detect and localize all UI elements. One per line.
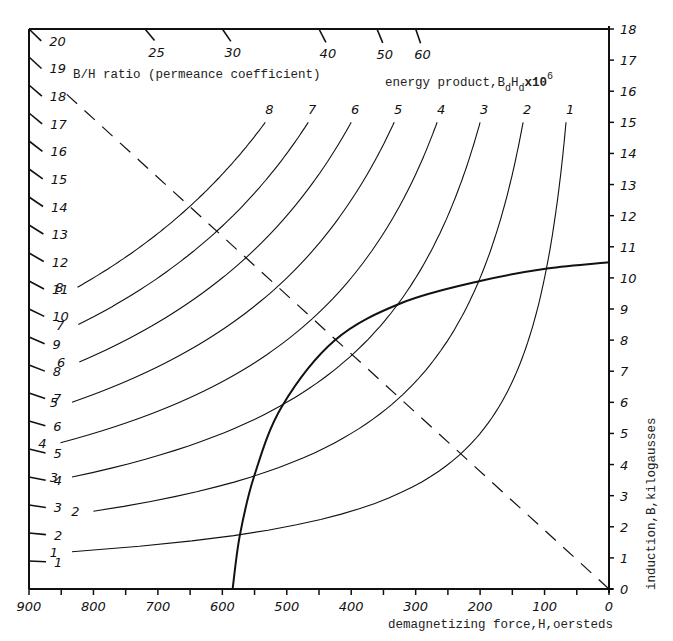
permeance-scale: 1234567891011121314151617181920253040506… — [29, 29, 431, 570]
demagnetization-chart: 9008007006005004003002001000 01234567891… — [0, 0, 673, 641]
y-tick-label: 10 — [620, 271, 637, 286]
energy-curve-label: 1 — [566, 102, 574, 117]
permeance-tick-label: 16 — [50, 144, 67, 159]
y-tick-label: 12 — [620, 209, 637, 224]
x-tick-label: 700 — [145, 599, 170, 614]
y-tick-label: 15 — [620, 115, 637, 130]
x-axis-title: demagnetizing force,H,oersteds — [388, 618, 613, 632]
x-tick-label: 900 — [17, 599, 42, 614]
energy-product-curve — [78, 122, 308, 324]
energy-curve-label: 4 — [437, 102, 445, 117]
energy-curve-label: 8 — [55, 280, 63, 295]
energy-curve-label: 6 — [351, 102, 359, 117]
energy-curve-label: 1 — [50, 545, 58, 560]
y-axis-title: induction,B,kilogausses — [645, 417, 659, 590]
x-tick-label: 0 — [605, 599, 613, 614]
energy-curve-label: 2 — [523, 102, 531, 117]
energy-curve-label: 3 — [480, 102, 488, 117]
y-tick-label: 1 — [620, 551, 628, 566]
energy-curve-label: 4 — [38, 436, 46, 451]
x-tick-label: 300 — [403, 599, 428, 614]
energy-product-curve — [61, 122, 438, 443]
y-tick-label: 4 — [620, 458, 628, 473]
permeance-tick-label: 3 — [54, 500, 62, 515]
energy-curve-label: 7 — [56, 318, 65, 333]
y-tick-label: 2 — [620, 520, 628, 535]
y-tick-label: 0 — [620, 582, 628, 597]
permeance-tick-label: 30 — [225, 45, 242, 60]
permeance-tick-label: 25 — [148, 45, 165, 60]
y-tick-label: 3 — [620, 489, 628, 504]
energy-curve-label: 3 — [50, 470, 58, 485]
permeance-tick-label: 9 — [53, 337, 61, 352]
y-tick-label: 11 — [620, 240, 637, 255]
energy-product-curve — [72, 122, 480, 477]
energy-curve-label: 5 — [394, 102, 402, 117]
permeance-tick-label: 15 — [51, 172, 68, 187]
y-tick-label: 18 — [620, 22, 637, 37]
y-tick-label: 14 — [620, 146, 637, 161]
y-tick-label: 8 — [620, 333, 628, 348]
y-tick-label: 6 — [620, 395, 628, 410]
x-tick-label: 200 — [468, 599, 493, 614]
energy-product-label: energy product,BdHdx106 — [385, 71, 553, 94]
permeance-tick-label: 19 — [50, 61, 67, 76]
x-axis: 9008007006005004003002001000 — [17, 589, 614, 614]
permeance-tick-label: 2 — [54, 528, 62, 543]
y-tick-label: 5 — [620, 426, 628, 441]
demagnetization-curve — [233, 262, 609, 589]
energy-product-curves: 1122334455667788 — [38, 102, 574, 559]
permeance-tick-label: 20 — [49, 34, 66, 49]
data-series — [60, 88, 609, 589]
permeance-tick-label: 12 — [52, 255, 69, 270]
y-axis: 0123456789101112131415161718 — [609, 22, 637, 597]
permeance-tick-label: 60 — [414, 47, 431, 62]
permeance-label: B/H ratio (permeance coefficient) — [73, 68, 321, 82]
y-tick-label: 13 — [620, 178, 637, 193]
permeance-tick-label: 18 — [50, 89, 67, 104]
energy-product-curve — [78, 122, 266, 287]
y-tick-label: 16 — [620, 84, 637, 99]
energy-curve-label: 6 — [57, 355, 65, 370]
energy-curve-label: 7 — [308, 102, 317, 117]
permeance-tick-label: 50 — [376, 47, 393, 62]
energy-curve-label: 5 — [50, 395, 58, 410]
x-tick-label: 400 — [339, 599, 364, 614]
x-tick-label: 600 — [210, 599, 235, 614]
permeance-tick-label: 40 — [320, 46, 337, 61]
x-tick-label: 100 — [532, 599, 557, 614]
permeance-tick-label: 17 — [50, 117, 67, 132]
permeance-tick-label: 14 — [51, 200, 68, 215]
energy-product-curve — [93, 122, 523, 511]
y-tick-label: 7 — [620, 364, 629, 379]
energy-product-curve — [79, 122, 351, 362]
y-tick-label: 17 — [620, 53, 637, 68]
energy-curve-label: 8 — [265, 102, 273, 117]
x-tick-label: 500 — [274, 599, 299, 614]
energy-product-curve — [72, 122, 566, 551]
y-tick-label: 9 — [620, 302, 628, 317]
permeance-tick-label: 13 — [51, 227, 68, 242]
load-line — [60, 88, 609, 589]
permeance-tick-label: 5 — [54, 446, 62, 461]
energy-curve-label: 2 — [71, 504, 79, 519]
x-tick-label: 800 — [81, 599, 106, 614]
permeance-tick-label: 6 — [53, 419, 61, 434]
